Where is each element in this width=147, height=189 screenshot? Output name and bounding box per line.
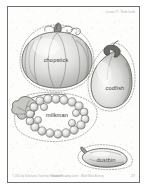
label-chopstick: chopstick: [44, 58, 69, 64]
worksheet-page: Lesson 27 · Word Cards: [7, 6, 140, 183]
page-number: 27: [131, 175, 135, 179]
cutout-grapes[interactable]: milkman: [10, 89, 102, 145]
label-dustbin: dustbin: [96, 158, 115, 164]
header-right-text: Lesson 27 · Word Cards: [106, 11, 135, 15]
label-codfish: codfish: [106, 86, 125, 92]
label-milkman: milkman: [46, 113, 68, 119]
cutout-squash[interactable]: dustbin: [74, 142, 136, 172]
footer-center-text: Guided Reading Level · Word Work Activit…: [52, 175, 104, 179]
cutout-stage: chopstick: [8, 16, 140, 174]
